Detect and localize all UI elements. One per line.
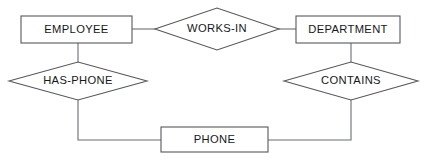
er-diagram-svg: EMPLOYEE DEPARTMENT PHONE WORKS-IN HAS-P… xyxy=(0,0,429,165)
relationship-has-phone-label: HAS-PHONE xyxy=(43,74,113,86)
entity-employee[interactable]: EMPLOYEE xyxy=(21,16,132,43)
er-diagram-canvas: EMPLOYEE DEPARTMENT PHONE WORKS-IN HAS-P… xyxy=(0,0,429,165)
connector-contains-phone xyxy=(268,100,351,140)
relationship-works-in[interactable]: WORKS-IN xyxy=(155,8,279,50)
relationship-works-in-label: WORKS-IN xyxy=(187,22,247,34)
connector-has-phone-phone xyxy=(78,100,161,140)
relationship-contains-label: CONTAINS xyxy=(321,74,381,86)
entity-phone[interactable]: PHONE xyxy=(161,127,268,152)
relationship-contains[interactable]: CONTAINS xyxy=(284,62,418,100)
relationship-has-phone[interactable]: HAS-PHONE xyxy=(9,62,147,100)
entity-department-label: DEPARTMENT xyxy=(308,23,388,35)
entity-department[interactable]: DEPARTMENT xyxy=(296,16,400,43)
entity-phone-label: PHONE xyxy=(194,133,236,145)
entity-employee-label: EMPLOYEE xyxy=(44,23,108,35)
